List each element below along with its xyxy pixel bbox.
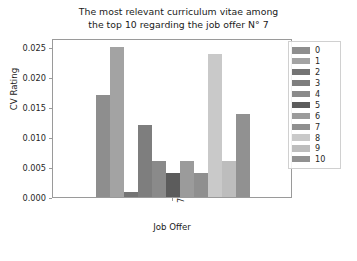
legend-swatch-icon [292, 47, 310, 53]
y-tick-label: 0.020 [23, 73, 46, 83]
bar-series-1 [110, 47, 124, 197]
legend-item-5[interactable]: 5 [292, 99, 337, 110]
bars-layer [53, 40, 291, 197]
legend-item-label: 7 [315, 123, 320, 131]
chart-title-line-2: the top 10 regarding the job offer N° 7 [0, 19, 357, 32]
plot-area [52, 39, 292, 198]
y-tick-label: 0.025 [23, 43, 46, 53]
legend-swatch-icon [292, 124, 310, 130]
legend-item-label: 1 [315, 57, 320, 65]
legend-item-label: 10 [315, 155, 325, 163]
bar-series-0 [96, 95, 110, 197]
bar-series-10 [236, 114, 250, 197]
y-tick-label: 0.015 [23, 103, 46, 113]
legend-swatch-icon [292, 91, 310, 97]
legend-item-8[interactable]: 8 [292, 132, 337, 143]
bar-series-4 [152, 161, 166, 197]
legend-item-1[interactable]: 1 [292, 56, 337, 67]
legend-item-label: 9 [315, 144, 320, 152]
legend-swatch-icon [292, 69, 310, 75]
legend-item-9[interactable]: 9 [292, 143, 337, 154]
legend-item-label: 5 [315, 101, 320, 109]
bar-series-6 [180, 161, 194, 197]
legend-swatch-icon [292, 145, 310, 151]
bar-series-3 [138, 125, 152, 197]
legend-item-0[interactable]: 0 [292, 45, 337, 56]
bar-series-7 [194, 173, 208, 197]
chart-screenshot: The most relevant curriculum vitae among… [0, 0, 357, 261]
legend-item-3[interactable]: 3 [292, 78, 337, 89]
legend-item-label: 4 [315, 90, 320, 98]
legend-item-label: 8 [315, 134, 320, 142]
legend-item-6[interactable]: 6 [292, 110, 337, 121]
legend-item-7[interactable]: 7 [292, 121, 337, 132]
y-tick-mark [49, 198, 52, 199]
legend[interactable]: 012345678910 [288, 41, 341, 169]
legend-swatch-icon [292, 156, 310, 162]
legend-item-2[interactable]: 2 [292, 67, 337, 78]
legend-item-label: 6 [315, 112, 320, 120]
x-tick-mark [172, 198, 173, 201]
legend-swatch-icon [292, 134, 310, 140]
bar-series-9 [222, 161, 236, 197]
y-tick-label: 0.010 [23, 133, 46, 143]
y-axis-tick-labels: 0.0000.0050.0100.0150.0200.025 [8, 39, 46, 198]
legend-item-4[interactable]: 4 [292, 89, 337, 100]
chart-title: The most relevant curriculum vitae among… [0, 6, 357, 31]
legend-swatch-icon [292, 102, 310, 108]
legend-swatch-icon [292, 58, 310, 64]
legend-item-label: 0 [315, 46, 320, 54]
legend-item-label: 2 [315, 68, 320, 76]
x-tick-label: 7 [176, 198, 186, 203]
legend-swatch-icon [292, 80, 310, 86]
bar-series-2 [124, 192, 138, 197]
y-tick-label: 0.000 [23, 193, 46, 203]
y-tick-label: 0.005 [23, 163, 46, 173]
legend-item-label: 3 [315, 79, 320, 87]
legend-item-10[interactable]: 10 [292, 154, 337, 165]
legend-swatch-icon [292, 113, 310, 119]
chart-title-line-1: The most relevant curriculum vitae among [0, 6, 357, 19]
bar-series-8 [208, 54, 222, 197]
x-axis-label: Job Offer [52, 222, 292, 232]
bar-series-5 [166, 173, 180, 197]
